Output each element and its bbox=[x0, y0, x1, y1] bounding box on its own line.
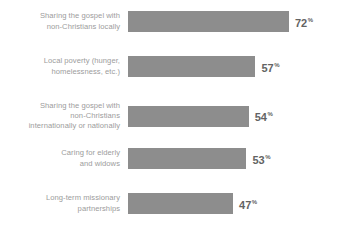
percent-sign: % bbox=[308, 17, 313, 23]
bar-row: Sharing the gospel with non-Christians l… bbox=[0, 11, 348, 32]
bar-value-label: 54% bbox=[255, 109, 273, 123]
bar-value-label: 57% bbox=[261, 60, 279, 74]
bar-track: 47% bbox=[128, 193, 348, 214]
bar-track: 72% bbox=[128, 11, 348, 32]
bar-track: 53% bbox=[128, 148, 348, 169]
bar-fill bbox=[128, 148, 246, 169]
bar-row: Sharing the gospel with non-Christians i… bbox=[0, 101, 348, 132]
percent-sign: % bbox=[252, 199, 257, 205]
horizontal-bar-chart: Sharing the gospel with non-Christians l… bbox=[0, 0, 348, 237]
percent-sign: % bbox=[274, 62, 279, 68]
percent-sign: % bbox=[267, 111, 272, 117]
bar-fill bbox=[128, 56, 255, 77]
bar-row: Caring for elderly and widows 53% bbox=[0, 148, 348, 169]
bar-category-label: Sharing the gospel with non-Christians i… bbox=[0, 101, 128, 132]
bar-fill bbox=[128, 11, 289, 32]
bar-fill bbox=[128, 106, 249, 127]
bar-track: 57% bbox=[128, 56, 348, 77]
bar-value-number: 57 bbox=[261, 61, 273, 73]
bar-value-number: 54 bbox=[255, 111, 267, 123]
bar-row: Long-term missionary partnerships 47% bbox=[0, 193, 348, 214]
bar-value-number: 47 bbox=[239, 198, 251, 210]
bar-value-label: 72% bbox=[295, 15, 313, 29]
bar-track: 54% bbox=[128, 106, 348, 127]
bar-category-label: Local poverty (hunger, homelessness, etc… bbox=[0, 56, 128, 76]
bar-row: Local poverty (hunger, homelessness, etc… bbox=[0, 56, 348, 77]
percent-sign: % bbox=[265, 154, 270, 160]
bar-fill bbox=[128, 193, 233, 214]
bar-value-number: 53 bbox=[252, 153, 264, 165]
bar-value-label: 47% bbox=[239, 197, 257, 211]
bar-value-number: 72 bbox=[295, 16, 307, 28]
bar-category-label: Sharing the gospel with non-Christians l… bbox=[0, 11, 128, 31]
bar-category-label: Caring for elderly and widows bbox=[0, 148, 128, 168]
bar-value-label: 53% bbox=[252, 152, 270, 166]
bar-category-label: Long-term missionary partnerships bbox=[0, 193, 128, 213]
